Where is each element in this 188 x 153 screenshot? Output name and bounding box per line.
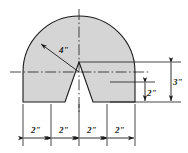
segment-1-label: 2" bbox=[30, 125, 41, 135]
notch-depth-label: 2" bbox=[146, 88, 157, 98]
segment-4-label: 2" bbox=[114, 125, 125, 135]
engineering-drawing: 4" 2" 3" 2" 2" 2" 2" bbox=[0, 0, 188, 153]
radius-label: 4" bbox=[58, 45, 69, 55]
overall-height-label: 3" bbox=[172, 77, 183, 87]
segment-3-label: 2" bbox=[86, 125, 97, 135]
segment-2-label: 2" bbox=[58, 125, 69, 135]
